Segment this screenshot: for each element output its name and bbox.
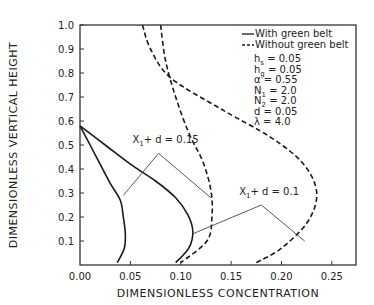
parameter-item: d = 0.05 xyxy=(254,106,297,117)
y-tick-label: 0.2 xyxy=(58,212,74,223)
x-tick-label: 0.00 xyxy=(69,271,91,282)
x-axis: 0.000.050.100.150.200.25 xyxy=(69,261,343,282)
plot-border xyxy=(80,25,356,265)
x-tick-label: 0.10 xyxy=(170,271,192,282)
annotation-leader-line xyxy=(261,205,304,241)
annotation-label: X1+ d = 0.15 xyxy=(132,134,198,148)
y-tick-label: 0.3 xyxy=(58,188,74,199)
legend-label: With green belt xyxy=(255,28,332,39)
x-tick-label: 0.20 xyxy=(270,271,292,282)
y-tick-label: 0.9 xyxy=(58,44,74,55)
y-tick-label: 0.6 xyxy=(58,116,74,127)
chart: 0.000.050.100.150.200.25 0.10.20.30.40.5… xyxy=(0,0,374,305)
x-tick-label: 0.15 xyxy=(220,271,242,282)
y-axis-title: DIMENSIONLESS VERTICAL HEIGHT xyxy=(7,42,20,249)
parameter-item: α = 0.55 xyxy=(254,74,298,85)
y-tick-label: 0.5 xyxy=(58,140,74,151)
x-axis-title: DIMENSIONLESS CONCENTRATION xyxy=(117,287,319,300)
annotation-leader-line xyxy=(193,205,261,234)
solid-curve-0 xyxy=(80,126,125,263)
plot-frame xyxy=(80,25,356,265)
y-tick-label: 0.7 xyxy=(58,92,74,103)
annotation-leader-line xyxy=(159,153,211,197)
y-tick-label: 0.8 xyxy=(58,68,74,79)
annotations: X1+ d = 0.15X1+ d = 0.1 xyxy=(123,134,304,241)
annotation-leader-line xyxy=(123,153,158,195)
y-tick-label: 0.1 xyxy=(58,236,74,247)
parameter-list: hs = 0.05hg = 0.05α = 0.55N1 = 2.0N2 = 2… xyxy=(254,53,302,127)
y-tick-label: 1.0 xyxy=(58,20,74,31)
annotation-label: X1+ d = 0.1 xyxy=(239,186,299,200)
legend: With green beltWithout green belt xyxy=(242,28,349,50)
x-tick-label: 0.05 xyxy=(119,271,141,282)
solid-curve-1 xyxy=(80,126,193,263)
y-tick-label: 0.4 xyxy=(58,164,74,175)
x-tick-label: 0.25 xyxy=(321,271,343,282)
legend-label: Without green belt xyxy=(255,39,349,50)
parameter-item: λ = 4.0 xyxy=(254,116,291,127)
